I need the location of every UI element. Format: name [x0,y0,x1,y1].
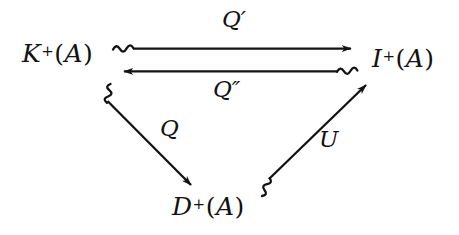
node-d-argument: A [216,192,235,221]
arrow-u-base: U [319,126,338,152]
node-d-close-paren: ) [234,192,244,221]
node-k-superscript: + [41,42,54,60]
arrow-q-prime-mark: ′ [241,6,246,32]
node-i-base: I [372,44,382,73]
squiggle-tail-q [105,84,112,103]
arrow-line-q [108,101,192,185]
node-label-i-plus-a: I+(A) [372,46,435,71]
arrow-label-q-double-prime: Q″ [213,78,240,101]
node-i-open-paren: ( [395,44,405,73]
squiggle-tail-q-double-prime [337,68,357,74]
arrow-label-q: Q [160,117,179,140]
node-k-open-paren: ( [54,39,64,68]
arrow-u [262,85,366,196]
node-label-d-plus-a: D+(A) [172,194,245,219]
arrow-line-u [269,85,366,179]
node-d-superscript: + [193,195,206,213]
node-k-close-paren: ) [83,39,93,68]
node-k-base: K [22,39,41,68]
arrow-label-q-prime: Q′ [222,8,246,31]
squiggle-tail-q-prime [113,45,133,51]
arrow-q-prime [113,45,351,51]
node-k-argument: A [65,39,84,68]
arrow-q-base: Q [160,115,179,141]
arrow-q-double-prime-base: Q [213,76,232,102]
node-i-argument: A [406,44,425,73]
node-d-base: D [172,192,193,221]
diagram-canvas: K+(A) I+(A) D+(A) Q′ Q″ Q U [0,0,459,235]
node-d-open-paren: ( [206,192,216,221]
arrow-q-double-prime-mark: ″ [232,76,241,102]
node-label-k-plus-a: K+(A) [22,41,93,66]
node-i-superscript: + [382,47,395,65]
squiggle-tail-u [262,178,271,196]
arrow-label-u: U [319,128,338,151]
arrow-q-prime-base: Q [222,6,241,32]
arrow-q-double-prime [124,68,357,74]
node-i-close-paren: ) [424,44,434,73]
